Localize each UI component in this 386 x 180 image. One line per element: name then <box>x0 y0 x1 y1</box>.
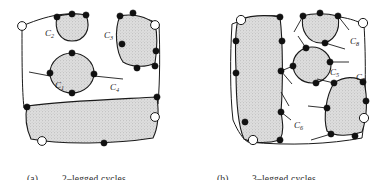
vertex-filled <box>91 71 97 77</box>
vertex-filled <box>101 140 107 146</box>
vertex-filled <box>278 109 284 115</box>
vertex-filled <box>24 104 30 110</box>
cycle-region-c5 <box>293 47 331 83</box>
vertex-filled <box>300 13 306 19</box>
cycle-region-c8 <box>302 14 338 43</box>
vertex-filled <box>328 131 334 137</box>
vertex-filled <box>317 10 323 16</box>
figure-canvas: C1 C2 C3 C4 <box>0 0 386 180</box>
vertex-filled <box>324 105 330 111</box>
vertex-hollow <box>236 15 245 24</box>
vertex-filled <box>54 14 60 20</box>
cycle-label-c7: C7 <box>356 72 366 83</box>
panel-b-caption: 3–legged cycles <box>252 174 316 180</box>
vertex-filled <box>119 41 125 47</box>
cycle-region-c4 <box>26 97 158 143</box>
vertex-filled <box>154 94 160 100</box>
vertex-filled <box>363 98 369 104</box>
vertex-filled <box>69 11 75 17</box>
cycle-label-c2: C2 <box>45 28 54 39</box>
vertex-filled <box>83 12 89 18</box>
vertex-filled <box>331 80 337 86</box>
vertex-hollow <box>151 113 160 122</box>
vertex-hollow <box>359 113 368 122</box>
vertex-filled <box>242 119 248 125</box>
panel-a-tag: (a) <box>27 174 38 180</box>
vertex-hollow <box>38 137 47 146</box>
panel-b-graph: C5 C6 C7 C8 <box>231 10 369 145</box>
vertex-hollow <box>248 135 257 144</box>
vertex-filled <box>277 137 283 143</box>
panel-a-caption: 2–legged cycles <box>62 174 126 180</box>
cycle-label-c4: C4 <box>110 82 119 93</box>
vertex-filled <box>352 133 358 139</box>
vertex-filled <box>278 68 284 74</box>
vertex-filled <box>233 70 239 76</box>
vertex-filled <box>134 65 140 71</box>
vertex-filled <box>233 38 239 44</box>
vertex-filled <box>69 90 75 96</box>
vertex-filled <box>327 59 333 65</box>
cycle-region-c7 <box>325 78 366 136</box>
vertex-filled <box>153 48 159 54</box>
vertex-filled <box>313 80 319 86</box>
vertex-filled <box>47 70 53 76</box>
panel-a-graph: C1 C2 C3 C4 <box>18 10 160 146</box>
vertex-filled <box>69 50 75 56</box>
vertex-hollow <box>358 18 367 27</box>
panel-b-tag: (b) <box>217 174 229 180</box>
vertex-filled <box>303 45 309 51</box>
vertex-filled <box>279 38 285 44</box>
vertex-filled <box>277 14 283 20</box>
figure-root: C1 C2 C3 C4 <box>0 0 386 180</box>
cycle-label-c3: C3 <box>104 30 113 41</box>
vertex-filled <box>117 13 123 19</box>
vertex-filled <box>335 13 341 19</box>
vertex-filled <box>290 63 296 69</box>
vertex-filled <box>152 63 158 69</box>
cycle-label-c5: C5 <box>330 67 339 78</box>
cycle-label-c8: C8 <box>350 36 360 47</box>
vertex-hollow <box>151 21 160 30</box>
vertex-hollow <box>18 22 27 31</box>
cycle-region-c2 <box>56 14 88 41</box>
vertex-filled <box>130 10 136 16</box>
cycle-label-c6: C6 <box>294 120 304 131</box>
vertex-filled <box>322 40 328 46</box>
